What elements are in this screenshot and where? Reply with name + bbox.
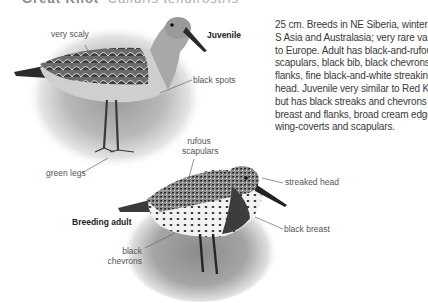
label-black-breast: black breast [284, 224, 330, 234]
label-chevrons-line2: chevrons [105, 256, 142, 266]
description-line: to Europe. Adult has black-and-rufous [275, 45, 425, 58]
label-streaked-head: streaked head [285, 177, 339, 187]
description-line: breast and flanks, broad cream edges to [275, 109, 425, 122]
label-very-scaly: very scaly [51, 29, 89, 39]
description-line: head. Juvenile very similar to Red Knot [275, 83, 425, 96]
description-line: 25 cm. Breeds in NE Siberia, winters in [275, 19, 425, 32]
breeding-adult-title: Breeding adult [72, 217, 132, 227]
juvenile-title: Juvenile [207, 30, 241, 40]
label-rufous-line1: rufous [182, 136, 216, 146]
description-line: scapulars, black bib, black chevrons on [275, 57, 425, 70]
label-rufous-line2: scapulars [182, 146, 216, 156]
label-black-spots: black spots [193, 75, 236, 85]
species-description: 25 cm. Breeds in NE Siberia, winters in … [275, 19, 425, 134]
label-rufous-scapulars: rufous scapulars [182, 136, 216, 156]
description-line: wing-coverts and scapulars. [275, 121, 425, 134]
label-green-legs: green legs [46, 168, 86, 178]
description-line: but has black streaks and chevrons on [275, 96, 425, 109]
label-chevrons-line1: black [105, 246, 142, 256]
description-line: S Asia and Australasia; very rare vagran… [275, 32, 425, 45]
description-line: flanks, fine black-and-white streaking o… [275, 70, 425, 83]
label-black-chevrons: black chevrons [105, 246, 142, 266]
